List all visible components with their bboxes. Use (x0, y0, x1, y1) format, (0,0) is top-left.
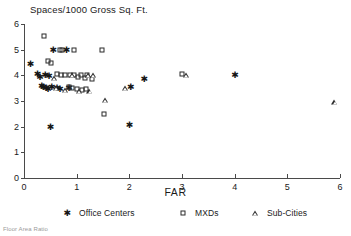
data-point: ✱ (231, 72, 238, 79)
data-point (91, 73, 97, 78)
data-point: ✱ (127, 83, 134, 90)
scatter-chart-figure: Spaces/1000 Gross Sq. Ft. 0123456 012345… (0, 0, 351, 236)
data-point (72, 73, 77, 78)
legend-label: MXDs (195, 209, 219, 218)
y-tick-label: 4 (14, 71, 19, 80)
y-tick-label: 2 (14, 122, 19, 131)
x-tick (287, 174, 288, 178)
data-point (59, 47, 64, 52)
data-point: ✱ (53, 85, 60, 92)
data-point: ✱ (65, 84, 72, 91)
open-square-icon (178, 208, 188, 218)
data-point (68, 72, 73, 77)
y-tick-label: 0 (14, 174, 19, 183)
y-tick (21, 50, 25, 51)
plot-area: 0123456 0123456 ✱✱✱✱✱✱✱✱✱✱✱✱✱✱✱✱✱✱✱✱ (24, 24, 340, 178)
data-point: ✱ (49, 46, 56, 53)
data-point (54, 86, 60, 91)
data-point: ✱ (45, 72, 52, 79)
legend-item-mxds[interactable]: MXDs (178, 208, 219, 218)
data-point (74, 87, 79, 92)
data-point (66, 84, 71, 89)
data-point (62, 88, 68, 93)
data-point (57, 47, 62, 52)
data-point (70, 86, 75, 91)
legend-label: Sub-Cities (267, 209, 307, 218)
data-point (85, 73, 90, 78)
chart-title: Spaces/1000 Gross Sq. Ft. (30, 4, 148, 15)
data-point (84, 86, 89, 91)
x-tick (129, 174, 130, 178)
data-point (54, 72, 59, 77)
x-tick (77, 174, 78, 178)
data-point: ✱ (44, 85, 51, 92)
open-triangle-icon (250, 208, 260, 218)
data-point (52, 75, 58, 80)
data-point (87, 88, 93, 93)
data-point: ✱ (27, 60, 34, 67)
data-point (49, 60, 54, 65)
data-point (82, 75, 87, 80)
data-point (42, 33, 47, 38)
data-point: ✱ (42, 72, 49, 79)
data-point: ✱ (39, 83, 46, 90)
x-axis-line (24, 178, 340, 179)
x-axis-title: FAR (0, 186, 351, 198)
data-point (183, 73, 189, 78)
footnote: Floor Area Ratio (3, 226, 48, 232)
y-tick (21, 178, 25, 179)
data-point (78, 73, 83, 78)
x-tick (182, 174, 183, 178)
data-point: ✱ (141, 76, 148, 83)
data-point: ✱ (126, 122, 133, 129)
data-point (102, 111, 107, 116)
y-tick (21, 101, 25, 102)
data-point: ✱ (47, 123, 54, 130)
data-point: ✱ (48, 83, 55, 90)
y-tick (21, 127, 25, 128)
x-tick (340, 174, 341, 178)
data-point (332, 100, 338, 105)
y-tick-label: 1 (14, 148, 19, 157)
y-tick (21, 75, 25, 76)
y-tick-label: 5 (14, 45, 19, 54)
data-point (75, 74, 80, 79)
data-point: ✱ (34, 71, 41, 78)
data-point (45, 59, 50, 64)
data-point: ✱ (36, 73, 43, 80)
legend-item-office-centers[interactable]: ✱Office Centers (62, 208, 135, 218)
x-tick (24, 174, 25, 178)
data-point (63, 73, 68, 78)
data-point (79, 88, 84, 93)
data-point (122, 85, 128, 90)
y-tick (21, 24, 25, 25)
data-point (90, 77, 95, 82)
legend-item-sub-cities[interactable]: Sub-Cities (250, 208, 307, 218)
data-point (76, 88, 82, 93)
data-point: ✱ (38, 82, 45, 89)
y-tick-label: 6 (14, 20, 19, 29)
data-point (99, 47, 104, 52)
data-point: ✱ (43, 84, 50, 91)
data-point: ✱ (56, 86, 63, 93)
filled-star-icon: ✱ (62, 208, 72, 218)
data-point (180, 72, 185, 77)
data-point (85, 73, 91, 78)
legend-label: Office Centers (79, 209, 135, 218)
y-tick-label: 3 (14, 97, 19, 106)
data-point (72, 47, 77, 52)
data-point (103, 97, 109, 102)
data-point: ✱ (63, 46, 70, 53)
x-tick (235, 174, 236, 178)
data-point (58, 73, 63, 78)
y-tick (21, 152, 25, 153)
chart-legend: ✱Office CentersMXDsSub-Cities (0, 206, 351, 222)
data-point (69, 73, 75, 78)
